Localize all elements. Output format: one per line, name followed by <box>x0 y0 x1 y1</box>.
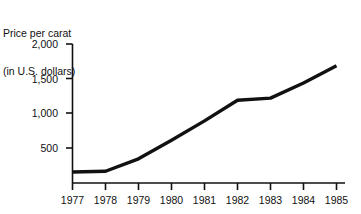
y-tick-label-500: 500 <box>6 142 58 154</box>
x-tick-label-1985: 1985 <box>317 194 357 206</box>
y-axis-ticks <box>66 44 73 148</box>
x-axis-ticks <box>73 183 337 190</box>
y-tick-label-1000: 1,000 <box>6 107 58 119</box>
y-tick-label-2000: 2,000 <box>6 38 58 50</box>
price-per-carat-line <box>73 66 337 172</box>
chart-container: Price per carat (in U.S. dollars) <box>0 0 361 214</box>
y-tick-label-1500: 1,500 <box>6 73 58 85</box>
